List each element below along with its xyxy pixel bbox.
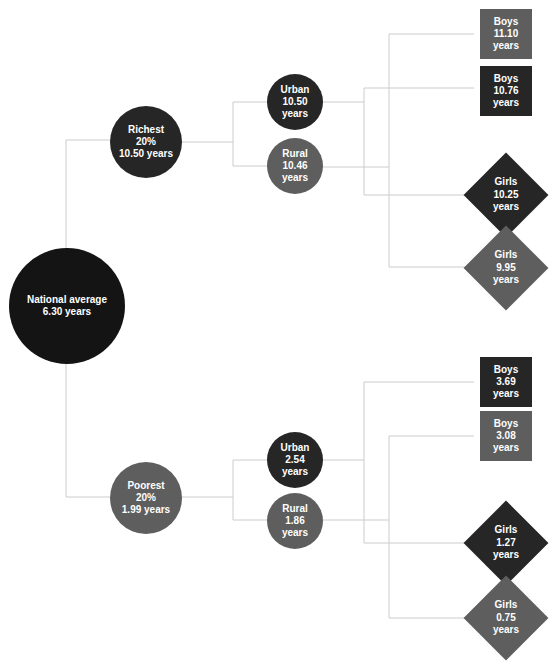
poorest-node: Poorest 20% 1.99 years [110, 462, 182, 534]
diamond-unit: years [493, 201, 519, 214]
box-value: 10.76 [493, 85, 518, 97]
poorest-rural-node: Rural 1.86 years [267, 493, 323, 549]
poorest-urban-label: Urban [281, 442, 310, 454]
poorest-value: 1.99 years [122, 504, 170, 516]
diamond-value: 9.95 [493, 262, 519, 275]
box-unit: years [493, 97, 519, 109]
richest-urban-unit: years [282, 108, 308, 120]
national-average-label: National average [27, 294, 107, 306]
diamond-value: 0.75 [493, 612, 519, 625]
richest-rural-value: 10.46 [282, 160, 307, 172]
richest-urban-node: Urban 10.50 years [267, 74, 323, 130]
poorest-urban-value: 2.54 [285, 454, 304, 466]
richest-urban-value: 10.50 [282, 96, 307, 108]
diamond-unit: years [493, 274, 519, 287]
box-value: 3.69 [496, 376, 515, 388]
national-average-node: National average 6.30 years [9, 248, 125, 364]
richest-label: Richest [128, 124, 164, 136]
box-label: Boys [494, 73, 518, 85]
poorest-boys-rural-box: Boys 3.08 years [480, 411, 532, 461]
box-label: Boys [494, 16, 518, 28]
richest-share: 20% [136, 136, 156, 148]
diamond-label: Girls [493, 249, 519, 262]
box-unit: years [493, 442, 519, 454]
poorest-boys-urban-box: Boys 3.69 years [480, 357, 532, 407]
box-unit: years [493, 40, 519, 52]
richest-urban-label: Urban [281, 84, 310, 96]
poorest-share: 20% [136, 492, 156, 504]
box-unit: years [493, 388, 519, 400]
poorest-label: Poorest [127, 480, 164, 492]
diamond-unit: years [493, 549, 519, 562]
richest-rural-node: Rural 10.46 years [267, 138, 323, 194]
poorest-girls-rural-diamond: Girls 0.75 years [463, 575, 549, 661]
richest-boys-urban-box: Boys 10.76 years [480, 66, 532, 116]
box-value: 11.10 [494, 28, 518, 40]
diamond-value: 1.27 [493, 537, 519, 550]
diamond-label: Girls [493, 524, 519, 537]
richest-rural-label: Rural [282, 148, 308, 160]
richest-girls-rural-diamond: Girls 9.95 years [463, 225, 549, 311]
poorest-rural-unit: years [282, 527, 308, 539]
poorest-rural-label: Rural [282, 503, 308, 515]
box-label: Boys [494, 364, 518, 376]
richest-value: 10.50 years [119, 148, 173, 160]
national-average-value: 6.30 years [43, 306, 91, 318]
poorest-rural-value: 1.86 [285, 515, 304, 527]
richest-node: Richest 20% 10.50 years [110, 106, 182, 178]
box-label: Boys [494, 418, 518, 430]
diamond-label: Girls [493, 599, 519, 612]
poorest-urban-node: Urban 2.54 years [267, 432, 323, 488]
box-value: 3.08 [496, 430, 515, 442]
poorest-girls-urban-diamond: Girls 1.27 years [463, 500, 549, 586]
richest-rural-unit: years [282, 172, 308, 184]
richest-boys-rural-box: Boys 11.10 years [480, 9, 532, 59]
diamond-value: 10.25 [493, 189, 519, 202]
diamond-label: Girls [493, 176, 519, 189]
poorest-urban-unit: years [282, 466, 308, 478]
diamond-unit: years [493, 624, 519, 637]
